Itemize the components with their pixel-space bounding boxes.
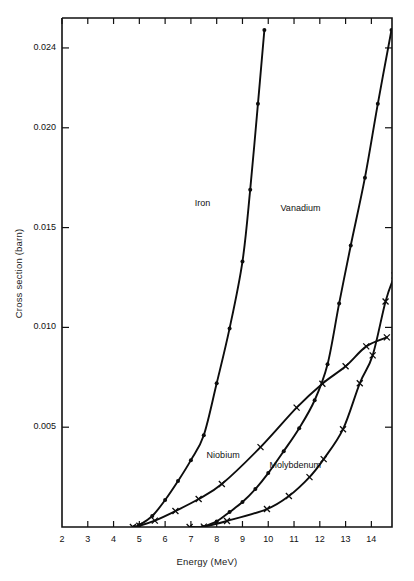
data-point-marker [363,343,369,349]
x-tick-label: 10 [255,534,281,544]
x-tick-label: 12 [307,534,333,544]
y-tick-label: 0.020 [10,122,56,132]
x-tick-label: 14 [358,534,384,544]
x-tick-label: 3 [75,534,101,544]
data-point-marker [189,458,193,462]
x-tick-label: 13 [333,534,359,544]
data-point-marker [219,481,225,487]
data-point-marker [262,28,266,32]
x-tick-label: 5 [126,534,152,544]
x-tick-label: 2 [49,534,75,544]
cross-section-chart: Energy (MeV) Cross section (barn) 234567… [0,0,414,581]
series-label-vanadium: Vanadium [281,203,321,213]
series-line [190,275,395,527]
data-point-marker [240,500,244,504]
x-tick-label: 4 [101,534,127,544]
series-iron [132,28,266,529]
series-group [130,28,398,530]
x-tick-label: 8 [204,534,230,544]
data-point-marker [202,433,206,437]
series-molybdenum [187,272,398,530]
data-point-marker [349,244,353,248]
data-point-marker [363,176,367,180]
data-point-marker [256,102,260,106]
data-point-marker [266,471,270,475]
data-point-marker [258,444,264,450]
x-tick-label: 7 [178,534,204,544]
data-point-marker [343,363,349,369]
data-point-marker [228,326,232,330]
data-point-marker [253,487,257,491]
y-tick-label: 0.024 [10,42,56,52]
data-point-marker [307,474,313,480]
series-label-molybdenum: Molybdenum [270,460,322,470]
plot-area [0,0,414,581]
series-line [134,30,264,527]
data-point-marker [294,405,300,411]
data-point-marker [286,493,292,499]
series-niobium [130,334,390,530]
data-point-marker [163,498,167,502]
data-point-marker [313,398,317,402]
data-point-marker [389,28,393,32]
data-point-marker [282,449,286,453]
data-point-marker [196,496,202,502]
data-point-marker [215,381,219,385]
data-point-marker [321,456,327,462]
x-tick-label: 6 [152,534,178,544]
series-line [133,337,387,527]
x-tick-label: 11 [281,534,307,544]
data-point-marker [326,362,330,366]
y-tick-label: 0.010 [10,321,56,331]
series-label-iron: Iron [195,198,211,208]
data-point-marker [376,102,380,106]
x-tick-label: 9 [229,534,255,544]
data-point-marker [297,426,301,430]
data-point-marker [337,301,341,305]
data-point-marker [176,479,180,483]
y-tick-label: 0.005 [10,421,56,431]
x-axis-title: Energy (MeV) [0,556,414,567]
data-point-marker [228,510,232,514]
data-point-marker [248,188,252,192]
data-point-marker [240,260,244,264]
y-tick-label: 0.015 [10,222,56,232]
series-label-niobium: Niobium [207,450,240,460]
